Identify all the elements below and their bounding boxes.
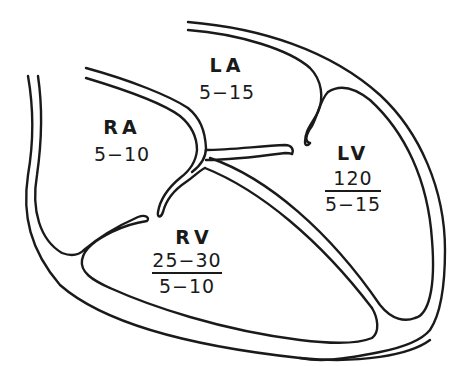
ra-label: RA 5−10 — [86, 118, 158, 164]
lv-pressure-fraction: 120 5−15 — [325, 169, 381, 214]
la-label: LA 5−15 — [194, 56, 260, 102]
ra-inner-wall — [35, 76, 84, 255]
ra-name: RA — [86, 118, 158, 137]
lv-name: LV — [320, 144, 386, 163]
rv-inner-wall — [110, 288, 377, 343]
rv-name: RV — [142, 228, 232, 247]
mitral-leaflet-lower — [206, 153, 292, 160]
rv-diastolic: 5−10 — [152, 277, 221, 296]
rv-pressure-fraction: 25−30 5−10 — [152, 251, 221, 296]
ra-pressure: 5−10 — [86, 145, 158, 164]
la-name: LA — [194, 56, 260, 75]
lv-label: LV 120 5−15 — [320, 144, 386, 214]
heart-diagram: RA 5−10 LA 5−15 LV 120 5−15 RV 25−30 5−1… — [0, 0, 469, 366]
lv-diastolic: 5−15 — [325, 195, 381, 214]
rv-label: RV 25−30 5−10 — [142, 228, 232, 296]
rv-systolic: 25−30 — [152, 251, 221, 274]
tricuspid-valve-leaflet — [82, 216, 148, 288]
mitral-valve-curl — [306, 92, 328, 143]
lv-systolic: 120 — [325, 169, 381, 192]
la-pressure: 5−15 — [194, 83, 260, 102]
